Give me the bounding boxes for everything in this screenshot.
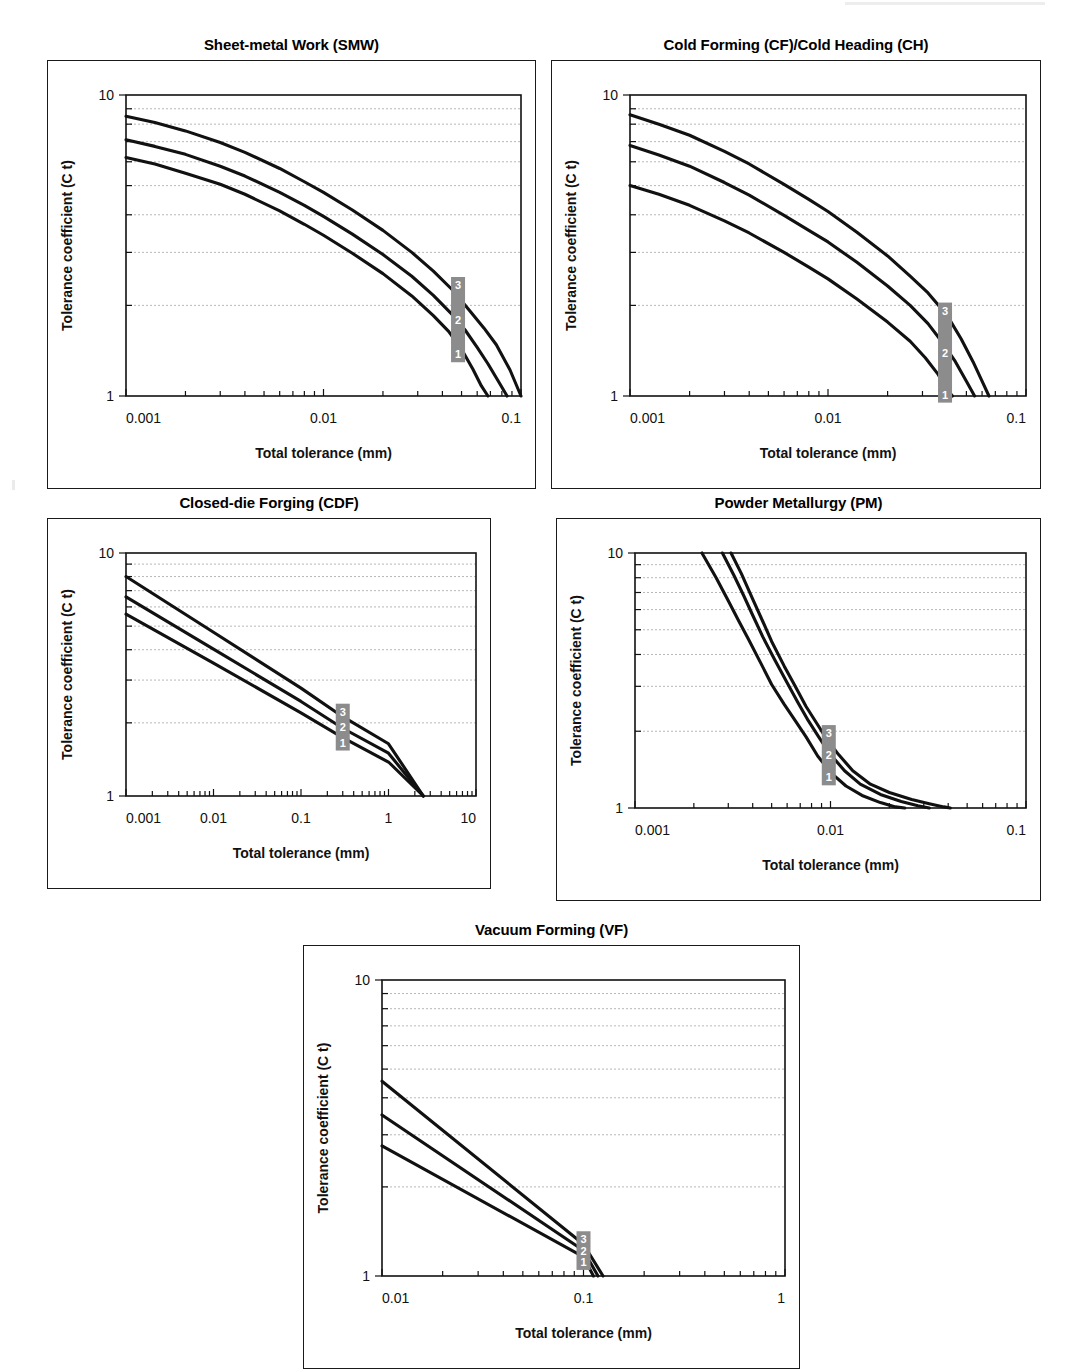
series-curve-3 xyxy=(630,115,989,396)
x-axis-title: Total tolerance (mm) xyxy=(255,445,392,461)
chart-svg-vf: 3210.010.11110Total tolerance (mm)Tolera… xyxy=(304,946,799,1368)
series-label-2: 2 xyxy=(340,721,346,733)
chart-svg-smw: 3210.0010.010.1110Total tolerance (mm)To… xyxy=(48,61,535,488)
x-tick-label: 0.1 xyxy=(502,410,522,426)
x-tick-label: 0.01 xyxy=(817,822,844,838)
x-tick-label: 1 xyxy=(777,1290,785,1306)
x-tick-label: 0.01 xyxy=(310,410,337,426)
panel-cf-ch: Cold Forming (CF)/Cold Heading (CH) 3210… xyxy=(551,36,1041,489)
series-curve-2 xyxy=(630,145,975,396)
plot-box xyxy=(126,553,476,796)
chart-svg-cdf: 3210.0010.010.1110110Total tolerance (mm… xyxy=(48,519,490,888)
x-tick-label: 1 xyxy=(385,810,393,826)
chart-frame-vf: 3210.010.11110Total tolerance (mm)Tolera… xyxy=(303,945,800,1369)
y-axis-title: Tolerance coefficient (C t) xyxy=(59,589,75,760)
x-tick-label: 0.001 xyxy=(630,410,665,426)
x-axis-title: Total tolerance (mm) xyxy=(515,1325,652,1341)
series-label-2: 2 xyxy=(942,347,948,359)
series-label-3: 3 xyxy=(942,305,948,317)
y-tick-label: 10 xyxy=(602,87,618,103)
x-tick-label: 0.001 xyxy=(126,810,161,826)
series-curve-1 xyxy=(126,157,488,396)
x-tick-label: 0.1 xyxy=(574,1290,594,1306)
chart-svg-cf-ch: 3210.0010.010.1110Total tolerance (mm)To… xyxy=(552,61,1040,488)
series-curve-1 xyxy=(630,186,952,396)
x-tick-label: 0.01 xyxy=(382,1290,409,1306)
series-label-1: 1 xyxy=(826,771,832,783)
chart-title-cf-ch: Cold Forming (CF)/Cold Heading (CH) xyxy=(551,36,1041,54)
x-tick-label: 10 xyxy=(460,810,476,826)
chart-svg-pm: 3210.0010.010.1110Total tolerance (mm)To… xyxy=(557,519,1040,900)
x-tick-label: 0.01 xyxy=(814,410,841,426)
y-tick-label: 10 xyxy=(354,972,370,988)
x-tick-label: 0.001 xyxy=(635,822,670,838)
x-tick-label: 0.01 xyxy=(200,810,227,826)
chart-title-smw: Sheet-metal Work (SMW) xyxy=(47,36,536,54)
chart-frame-pm: 3210.0010.010.1110Total tolerance (mm)To… xyxy=(556,518,1041,901)
series-curve-1 xyxy=(702,553,905,808)
series-label-2: 2 xyxy=(580,1245,586,1257)
series-curve-3 xyxy=(382,1081,603,1276)
y-tick-label: 1 xyxy=(615,800,623,816)
y-tick-label: 10 xyxy=(607,545,623,561)
x-tick-label: 0.1 xyxy=(1007,410,1027,426)
series-label-1: 1 xyxy=(340,737,346,749)
series-label-2: 2 xyxy=(826,749,832,761)
y-tick-label: 1 xyxy=(106,388,114,404)
chart-title-pm: Powder Metallurgy (PM) xyxy=(556,494,1041,512)
series-label-3: 3 xyxy=(340,706,346,718)
panel-cdf: Closed-die Forging (CDF) 3210.0010.010.1… xyxy=(47,494,491,889)
chart-frame-cf-ch: 3210.0010.010.1110Total tolerance (mm)To… xyxy=(551,60,1041,489)
y-axis-title: Tolerance coefficient (C t) xyxy=(59,160,75,331)
series-label-1: 1 xyxy=(455,348,461,360)
chart-frame-cdf: 3210.0010.010.1110110Total tolerance (mm… xyxy=(47,518,491,889)
y-axis-title: Tolerance coefficient (C t) xyxy=(563,160,579,331)
y-tick-label: 1 xyxy=(610,388,618,404)
series-label-1: 1 xyxy=(580,1256,586,1268)
scan-artifact-top xyxy=(845,2,1045,5)
panel-smw: Sheet-metal Work (SMW) 3210.0010.010.111… xyxy=(47,36,536,489)
chart-title-cdf: Closed-die Forging (CDF) xyxy=(47,494,491,512)
series-curve-2 xyxy=(126,140,507,396)
series-label-1: 1 xyxy=(942,389,948,401)
y-tick-label: 10 xyxy=(98,87,114,103)
y-axis-title: Tolerance coefficient (C t) xyxy=(568,595,584,766)
chart-frame-smw: 3210.0010.010.1110Total tolerance (mm)To… xyxy=(47,60,536,489)
y-tick-label: 1 xyxy=(362,1268,370,1284)
series-label-3: 3 xyxy=(455,279,461,291)
y-axis-title: Tolerance coefficient (C t) xyxy=(315,1043,331,1214)
x-tick-label: 0.001 xyxy=(126,410,161,426)
series-label-3: 3 xyxy=(580,1233,586,1245)
figure-sheet: Sheet-metal Work (SMW) 3210.0010.010.111… xyxy=(0,0,1088,1371)
series-curve-1 xyxy=(126,614,423,796)
series-curve-2 xyxy=(382,1115,598,1276)
series-curve-3 xyxy=(731,553,950,808)
y-tick-label: 10 xyxy=(98,545,114,561)
y-tick-label: 1 xyxy=(106,788,114,804)
panel-pm: Powder Metallurgy (PM) 3210.0010.010.111… xyxy=(556,494,1041,901)
x-tick-label: 0.1 xyxy=(1007,822,1027,838)
x-axis-title: Total tolerance (mm) xyxy=(762,857,899,873)
series-label-2: 2 xyxy=(455,314,461,326)
scan-artifact-left xyxy=(12,480,15,490)
x-tick-label: 0.1 xyxy=(291,810,311,826)
panel-vf: Vacuum Forming (VF) 3210.010.11110Total … xyxy=(303,921,800,1369)
series-label-3: 3 xyxy=(826,727,832,739)
x-axis-title: Total tolerance (mm) xyxy=(760,445,897,461)
chart-title-vf: Vacuum Forming (VF) xyxy=(303,921,800,939)
x-axis-title: Total tolerance (mm) xyxy=(233,845,370,861)
